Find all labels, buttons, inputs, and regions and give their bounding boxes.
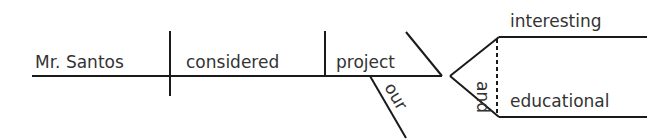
complement-word-1: interesting <box>510 11 602 31</box>
verb-word: considered <box>186 52 279 72</box>
sentence-diagram: Mr. Santos considered project our intere… <box>0 0 670 139</box>
fork-upper-branch <box>450 37 499 76</box>
complement-slant <box>406 32 442 76</box>
subject-word: Mr. Santos <box>35 52 124 72</box>
complement-word-2: educational <box>510 91 610 111</box>
direct-object-word: project <box>336 52 395 72</box>
conjunction-word: and <box>473 81 493 113</box>
modifier-word: our <box>381 79 412 113</box>
